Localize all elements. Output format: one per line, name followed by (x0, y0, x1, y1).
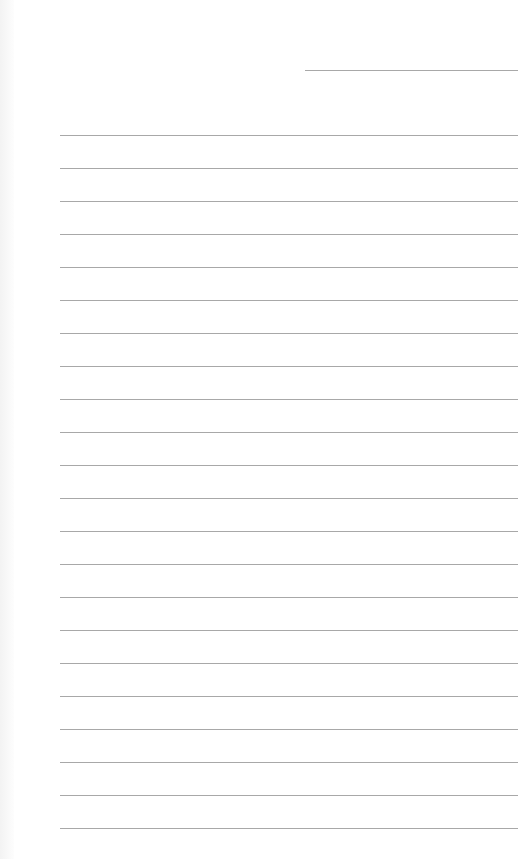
ruled-line (60, 333, 518, 334)
ruled-line (60, 564, 518, 565)
ruled-line (60, 366, 518, 367)
ruled-page (0, 0, 524, 859)
ruled-line (60, 168, 518, 169)
ruled-line (60, 597, 518, 598)
ruled-line (60, 795, 518, 796)
ruled-line (60, 432, 518, 433)
ruled-line (60, 828, 518, 829)
ruled-line (60, 234, 518, 235)
ruled-line (60, 762, 518, 763)
ruled-line (60, 300, 518, 301)
ruled-line (60, 399, 518, 400)
ruled-line (60, 630, 518, 631)
ruled-line (60, 729, 518, 730)
ruled-line (60, 135, 518, 136)
ruled-line (60, 531, 518, 532)
ruled-line (60, 498, 518, 499)
ruled-line (60, 696, 518, 697)
ruled-line (60, 465, 518, 466)
header-date-line (305, 70, 518, 71)
ruled-line (60, 267, 518, 268)
ruled-line (60, 663, 518, 664)
ruled-line (60, 201, 518, 202)
page-edge-shading (0, 0, 14, 859)
